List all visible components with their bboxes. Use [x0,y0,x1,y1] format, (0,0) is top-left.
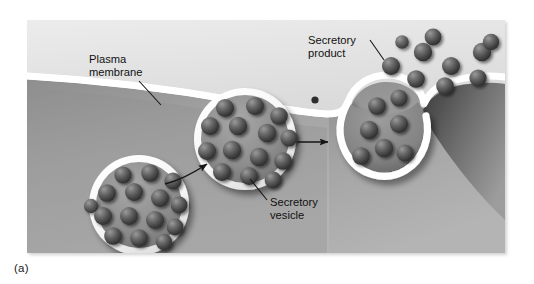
label-secretory-product-line2: product [308,47,346,59]
label-secretory-vesicle-line2: vesicle [270,209,304,221]
label-plasma-membrane-line1: Plasma [89,53,127,65]
granule-lone [311,96,318,103]
label-secretory-vesicle-line1: Secretory [270,196,318,208]
figure-caption: (a) [14,262,29,274]
figure-root: Plasma membrane Secretory product Secret… [0,0,534,284]
exocytosis-diagram-svg: Plasma membrane Secretory product Secret… [27,20,505,253]
label-plasma-membrane-line2: membrane [89,66,142,78]
diagram-image: Plasma membrane Secretory product Secret… [27,20,505,253]
label-secretory-product-line1: Secretory [308,34,356,46]
